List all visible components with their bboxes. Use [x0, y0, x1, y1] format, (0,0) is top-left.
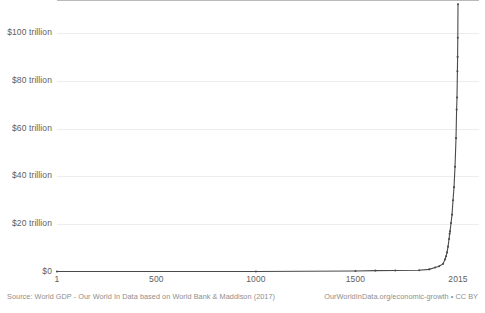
world-gdp-line [57, 4, 458, 271]
plot-area: $0$20 trillion$40 trillion$60 trillion$8… [0, 0, 485, 278]
world-gdp-markers [56, 3, 459, 272]
data-point [255, 270, 257, 272]
data-point [449, 230, 451, 232]
data-point [442, 263, 444, 265]
data-point [394, 269, 396, 271]
x-axis-tick-label: 1 [55, 274, 60, 284]
data-point [453, 186, 455, 188]
data-point [457, 56, 459, 58]
data-point [454, 166, 456, 168]
data-point [447, 246, 449, 248]
data-point [418, 269, 420, 271]
data-point [446, 251, 448, 253]
data-point [456, 70, 458, 72]
world-gdp-line-chart: $0$20 trillion$40 trillion$60 trillion$8… [0, 0, 485, 313]
data-point [444, 258, 446, 260]
data-point [56, 271, 58, 273]
x-axis-tick-label: 1500 [346, 274, 365, 284]
data-point [428, 268, 430, 270]
chart-footer: Source: World GDP - Our World In Data ba… [0, 292, 485, 306]
data-point [452, 199, 454, 201]
x-axis-tick-labels: 1500100015002015 [0, 274, 485, 290]
data-point [457, 3, 459, 5]
data-point [449, 233, 451, 235]
data-point [457, 37, 459, 39]
data-point [374, 270, 376, 272]
x-axis-tick-label: 1000 [246, 274, 265, 284]
data-point [456, 96, 458, 98]
data-point [450, 222, 452, 224]
data-point [434, 266, 436, 268]
x-axis-tick-label: 500 [149, 274, 163, 284]
data-point [455, 137, 457, 139]
x-axis-baseline [57, 0, 479, 1]
x-axis-tick-label: 2015 [448, 274, 467, 284]
data-point [445, 255, 447, 257]
footer-credit-note[interactable]: OurWorldInData.org/economic-growth • CC … [324, 292, 478, 301]
data-point [451, 214, 453, 216]
data-point [438, 265, 440, 267]
footer-source-note: Source: World GDP - Our World In Data ba… [7, 292, 275, 301]
data-point [448, 238, 450, 240]
data-point [354, 270, 356, 272]
data-point [456, 108, 458, 110]
data-series-layer [0, 0, 485, 278]
